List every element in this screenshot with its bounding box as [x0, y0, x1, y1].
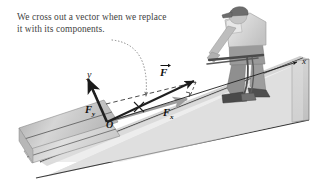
caption-line-1: We cross out a vector when we replace: [17, 12, 213, 24]
physics-vector-diagram: We cross out a vector when we replace it…: [0, 0, 316, 185]
person-cap-brim: [222, 12, 232, 18]
vector-f-label: F: [160, 66, 167, 78]
vector-fx-label: Fx: [163, 107, 174, 121]
origin-label: O: [106, 119, 113, 130]
caption-line-2: it with its components.: [17, 24, 213, 36]
vector-fx-subscript: x: [170, 113, 174, 121]
y-axis-label: y: [87, 69, 91, 80]
vector-fx-letter: F: [163, 107, 170, 118]
x-axis-label: x: [302, 56, 306, 66]
vector-fy-label: Fy: [85, 104, 95, 118]
caption-text: We cross out a vector when we replace it…: [17, 12, 213, 35]
caption-pointer-curve-icon: [112, 40, 146, 96]
mower-deck: [241, 93, 256, 101]
vector-overbar-arrow-icon: [160, 63, 171, 68]
vector-fy-letter: F: [85, 104, 92, 115]
vector-fy-subscript: y: [92, 110, 95, 118]
cross-out-mark-icon: [134, 102, 144, 112]
